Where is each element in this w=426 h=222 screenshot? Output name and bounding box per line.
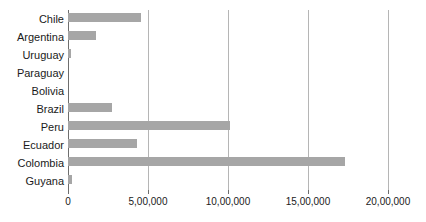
- bar-row: [68, 46, 388, 64]
- bar: [68, 121, 230, 130]
- bar-row: [68, 154, 388, 172]
- tick-label: 20,00,000: [366, 196, 411, 207]
- bar-chart: ChileArgentinaUruguayParaguayBoliviaBraz…: [0, 0, 426, 222]
- tick-mark: [68, 190, 69, 194]
- category-label: Colombia: [0, 154, 64, 172]
- category-label: Brazil: [0, 100, 64, 118]
- category-label: Chile: [0, 10, 64, 28]
- gridline: [388, 10, 389, 190]
- bar-row: [68, 118, 388, 136]
- bar-row: [68, 100, 388, 118]
- tick-mark: [308, 190, 309, 194]
- category-axis-labels: ChileArgentinaUruguayParaguayBoliviaBraz…: [0, 10, 64, 190]
- bar-row: [68, 28, 388, 46]
- bar: [68, 139, 137, 148]
- tick-label: 0: [65, 196, 71, 207]
- value-axis-ticks: 05,00,00010,00,00015,00,00020,00,000: [68, 190, 388, 196]
- plot-area: [68, 10, 388, 190]
- tick-mark: [228, 190, 229, 194]
- tick-label: 10,00,000: [206, 196, 251, 207]
- tick-label: 5,00,000: [129, 196, 168, 207]
- tick-mark: [148, 190, 149, 194]
- bar: [68, 31, 96, 40]
- bar-row: [68, 10, 388, 28]
- category-label: Uruguay: [0, 46, 64, 64]
- bar: [68, 49, 71, 58]
- bar: [68, 157, 345, 166]
- bar-row: [68, 172, 388, 190]
- category-label: Peru: [0, 118, 64, 136]
- bar: [68, 13, 141, 22]
- category-label: Bolivia: [0, 82, 64, 100]
- bar-row: [68, 82, 388, 100]
- bar-row: [68, 64, 388, 82]
- category-label: Paraguay: [0, 64, 64, 82]
- bar-row: [68, 136, 388, 154]
- category-label: Ecuador: [0, 136, 64, 154]
- tick-mark: [388, 190, 389, 194]
- bar-rows: [68, 10, 388, 190]
- tick-label: 15,00,000: [286, 196, 331, 207]
- bar: [68, 175, 72, 184]
- bar: [68, 103, 112, 112]
- category-label: Guyana: [0, 172, 64, 190]
- category-label: Argentina: [0, 28, 64, 46]
